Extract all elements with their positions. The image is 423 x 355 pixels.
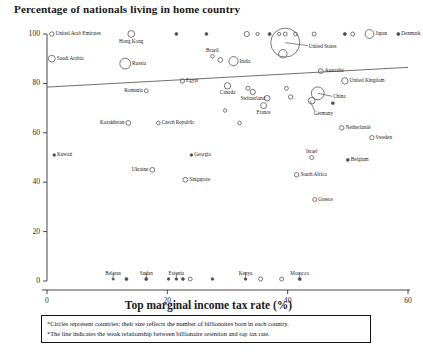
data-point-unlabeled-4 [205,33,208,36]
data-point-unlabeled-3 [175,33,178,36]
point-label: Morocco [260,271,340,276]
point-label: Sweden [376,135,392,140]
data-point-hong-kong [128,31,135,38]
data-point-netherlands [340,126,344,130]
data-point-sweden [370,136,374,140]
data-point-india [229,57,238,66]
data-point-kuwait [53,154,56,157]
data-point-unlabeled-8 [278,32,281,35]
data-point-united-arab-emirates [50,32,54,36]
data-point-unlabeled-51 [125,278,128,281]
point-label: Japan [375,31,387,36]
point-label: Georgia [194,152,211,157]
data-point-australia [318,69,323,74]
y-tick-label: 40 [14,177,40,186]
point-label: Saudi Arabia [57,56,84,61]
point-label: United Arab Emirates [56,31,101,36]
data-point-estonia [175,278,178,281]
point-label: South Africa [300,172,326,177]
data-point-romania [144,89,148,93]
y-tick-label: 20 [14,227,40,236]
data-point-unlabeled-6 [256,32,259,35]
data-point-sudan [145,278,148,281]
caption-line-2: *The line indicates the weak relationshi… [47,329,365,339]
point-label: United Kingdom [350,78,385,83]
point-label: United States [309,44,337,49]
data-point-united-kingdom [342,78,348,84]
data-point-canada [224,83,230,89]
point-label: Germany [314,111,333,116]
data-point-germany [308,97,315,104]
y-tick-label: 60 [14,128,40,137]
data-point-russia [120,58,131,69]
data-point-unlabeled-7 [268,33,271,36]
data-point-georgia [190,154,193,157]
data-point-unlabeled-55 [182,278,185,281]
point-label: Ukraine [68,167,148,172]
data-point-belgium [346,159,349,162]
data-point-denmark [397,33,400,36]
data-point-singapore [183,177,188,182]
data-point-kazakhstan [126,121,131,126]
data-point-unlabeled-13 [351,32,355,36]
data-point-israel [310,156,314,160]
data-point-unlabeled-60 [280,277,284,281]
data-point-unlabeled-53 [167,278,170,281]
data-point-belarus [112,278,114,280]
point-label: Denmark [401,31,420,36]
point-label: Netherlands [346,125,371,130]
data-point-unlabeled-56 [188,277,192,281]
point-label: Kazakhstan [44,120,124,125]
point-label: Israel [272,149,352,154]
data-point-unlabeled-11 [312,32,316,36]
point-label: Estonia [136,271,216,276]
data-point-unlabeled-5 [244,31,249,36]
x-axis-title: Top marginal income tax rate (%) [0,299,417,311]
data-point-saudi-arabia [48,55,55,62]
point-label: Egypt [186,78,198,83]
y-tick-label: 80 [14,78,40,87]
data-point-unlabeled-9 [283,32,287,36]
point-label: Russia [132,61,146,66]
y-tick-label: 0 [14,276,40,285]
data-point-kenya [244,278,247,281]
data-point-unlabeled-12 [343,33,346,36]
point-label: Greece [318,197,333,202]
data-point-unlabeled-31 [285,86,289,90]
y-tick-label: 100 [14,29,40,38]
data-point-morocco [298,278,301,281]
data-point-south-africa [294,173,298,177]
data-point-unlabeled-39 [238,121,242,125]
data-point-unlabeled-36 [331,102,334,105]
data-point-france [261,103,267,109]
data-point-unlabeled-20 [218,58,223,63]
point-label: China [333,94,345,99]
point-label: Hong Kong [91,39,171,44]
point-label: Brazil [172,48,252,53]
point-label: Singapore [189,177,210,182]
data-point-japan [365,30,374,39]
data-point-unlabeled-57 [211,278,214,281]
caption-line-1: *Circles represent countries; their size… [47,319,365,329]
point-label: Switzerland [213,96,293,101]
caption-box: *Circles represent countries; their size… [41,315,371,343]
data-point-ukraine [150,167,155,172]
point-label: Czech Republic [162,120,195,125]
point-label: Australia [325,68,344,73]
point-label: Belgium [351,157,369,162]
data-point-czech-republic [157,121,161,125]
data-point-greece [313,197,317,201]
point-label: Romania [63,88,143,93]
leader-line [285,43,308,46]
point-label: India [240,59,251,64]
data-point-unlabeled-59 [259,277,263,281]
point-label: France [224,110,304,115]
leader-line [318,93,332,96]
data-point-brazil [211,54,215,58]
point-label: Kuwait [57,152,72,157]
